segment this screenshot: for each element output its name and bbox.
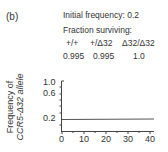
plot-area: [0, 0, 168, 152]
y-axis: [62, 81, 65, 131]
data-line: [62, 119, 154, 120]
